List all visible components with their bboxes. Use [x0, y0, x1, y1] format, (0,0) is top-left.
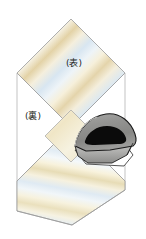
iron — [75, 114, 136, 166]
illustration-canvas: (表) (裏) — [0, 0, 146, 239]
label-front-side: (表) — [66, 57, 82, 68]
label-back-side: (裏) — [25, 110, 41, 121]
fabric-iron-illustration: (表) (裏) — [0, 0, 146, 239]
